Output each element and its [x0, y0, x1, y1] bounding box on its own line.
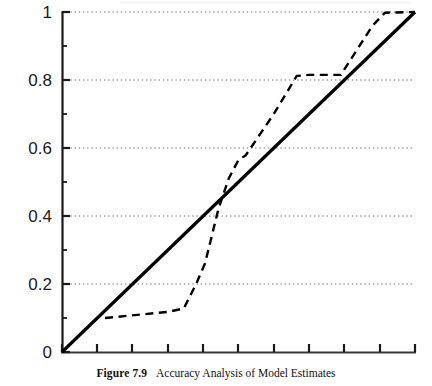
chart-plot-area	[0, 0, 432, 386]
figure-container: 1 0.8 0.6 0.4 0.2 0	[0, 0, 432, 386]
gridline-group	[62, 12, 415, 284]
figure-caption-text: Accuracy Analysis of Model Estimates	[156, 367, 336, 379]
figure-caption: Figure 7.9Accuracy Analysis of Model Est…	[0, 367, 432, 379]
series-reference-diagonal	[62, 12, 415, 352]
figure-caption-number: Figure 7.9	[96, 367, 147, 379]
x-axis-tick-group	[62, 344, 415, 352]
